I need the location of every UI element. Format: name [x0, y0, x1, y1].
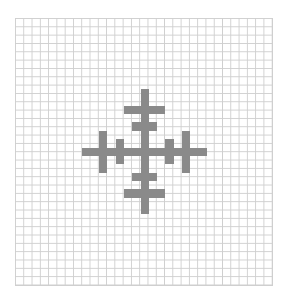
filled-cell[interactable]	[141, 122, 149, 130]
filled-cell[interactable]	[174, 148, 182, 156]
filled-cell[interactable]	[149, 122, 157, 130]
filled-cell[interactable]	[107, 148, 115, 156]
filled-cell[interactable]	[141, 164, 149, 172]
filled-cell[interactable]	[165, 139, 173, 147]
filled-cell[interactable]	[141, 148, 149, 156]
filled-cell[interactable]	[124, 189, 132, 197]
filled-cell[interactable]	[149, 106, 157, 114]
filled-cell[interactable]	[157, 106, 165, 114]
filled-cell[interactable]	[141, 89, 149, 97]
filled-cell[interactable]	[99, 139, 107, 147]
filled-cell[interactable]	[141, 189, 149, 197]
filled-cell[interactable]	[91, 148, 99, 156]
filled-cell[interactable]	[99, 156, 107, 164]
filled-cell[interactable]	[182, 148, 190, 156]
filled-cell[interactable]	[199, 148, 207, 156]
filled-cell[interactable]	[132, 173, 140, 181]
filled-cell[interactable]	[141, 106, 149, 114]
filled-cell[interactable]	[182, 131, 190, 139]
filled-cell[interactable]	[182, 139, 190, 147]
filled-cell[interactable]	[149, 189, 157, 197]
filled-cell[interactable]	[132, 106, 140, 114]
filled-cell[interactable]	[141, 206, 149, 214]
filled-cell[interactable]	[116, 139, 124, 147]
filled-cell[interactable]	[141, 114, 149, 122]
filled-cell[interactable]	[132, 122, 140, 130]
filled-cell[interactable]	[165, 156, 173, 164]
filled-cell[interactable]	[182, 156, 190, 164]
filled-cell[interactable]	[99, 131, 107, 139]
filled-cell[interactable]	[124, 106, 132, 114]
filled-cell[interactable]	[157, 148, 165, 156]
filled-cell[interactable]	[82, 148, 90, 156]
filled-cell[interactable]	[141, 181, 149, 189]
filled-cell[interactable]	[116, 148, 124, 156]
filled-cell[interactable]	[141, 139, 149, 147]
filled-cell[interactable]	[132, 148, 140, 156]
filled-cell[interactable]	[165, 148, 173, 156]
filled-cell[interactable]	[149, 173, 157, 181]
filled-cell[interactable]	[99, 164, 107, 172]
filled-cell[interactable]	[182, 164, 190, 172]
filled-cell[interactable]	[190, 148, 198, 156]
filled-cell[interactable]	[149, 148, 157, 156]
filled-cell[interactable]	[99, 148, 107, 156]
filled-cell[interactable]	[141, 173, 149, 181]
filled-cell[interactable]	[157, 189, 165, 197]
filled-cell[interactable]	[141, 131, 149, 139]
filled-cell[interactable]	[116, 156, 124, 164]
filled-cell[interactable]	[124, 148, 132, 156]
filled-cell[interactable]	[132, 189, 140, 197]
filled-cell[interactable]	[141, 198, 149, 206]
filled-cell[interactable]	[141, 156, 149, 164]
filled-cell[interactable]	[141, 97, 149, 105]
